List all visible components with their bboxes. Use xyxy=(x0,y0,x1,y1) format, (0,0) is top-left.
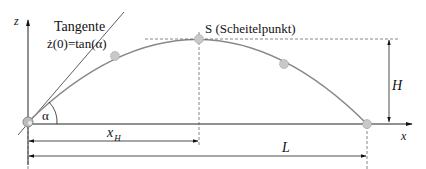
trajectory-point-3 xyxy=(280,60,289,69)
trajectory-curve xyxy=(28,39,367,124)
height-label: H xyxy=(391,78,403,93)
trajectory-diagram: z x α H xH L Tangente ż(0)=tan(α) S (Sch… xyxy=(0,0,426,169)
z-axis: z xyxy=(13,14,28,165)
apex-distance-dimension: xH xyxy=(29,125,198,143)
apex-distance-label: xH xyxy=(106,125,121,143)
range-label: L xyxy=(281,140,290,155)
height-dimension: H xyxy=(389,40,403,122)
range-dimension: L xyxy=(29,140,366,156)
tangent-formula: ż(0)=tan(α) xyxy=(47,36,107,51)
angle-arc xyxy=(49,102,57,124)
x-axis: x xyxy=(28,124,412,143)
apex-label: S (Scheitelpunkt) xyxy=(205,21,296,36)
tangent-label: Tangente xyxy=(54,19,105,34)
apex-point xyxy=(195,35,204,44)
z-axis-label: z xyxy=(13,14,19,28)
launch-point-inner xyxy=(28,121,32,125)
landing-point xyxy=(363,120,372,129)
trajectory-point-1 xyxy=(111,52,120,61)
x-axis-label: x xyxy=(400,129,407,143)
angle-label: α xyxy=(42,108,49,123)
